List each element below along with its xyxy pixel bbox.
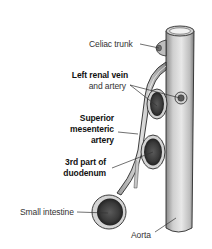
leader-sma (118, 132, 138, 134)
label-celiac-trunk: Celiac trunk (89, 39, 133, 49)
aorta (166, 26, 194, 232)
small-intestine-cross-section (92, 195, 126, 229)
anatomy-diagram: Celiac trunk Left renal vein and artery … (0, 0, 212, 249)
left-renal-artery-cross-section (175, 92, 187, 104)
leader-celiac-trunk (140, 44, 159, 48)
label-small-intestine: Small intestine (20, 207, 74, 217)
label-sma-line2: mesenteric (60, 124, 114, 134)
label-sma-line3: artery (60, 135, 114, 145)
label-aorta: Aorta (131, 230, 151, 240)
label-sma-line1: Superior (60, 113, 114, 123)
label-duodenum-line2: duodenum (50, 168, 106, 178)
label-and-artery: and artery (64, 81, 126, 91)
label-left-renal-vein: Left renal vein (64, 70, 128, 80)
label-duodenum-line1: 3rd part of (50, 157, 106, 167)
